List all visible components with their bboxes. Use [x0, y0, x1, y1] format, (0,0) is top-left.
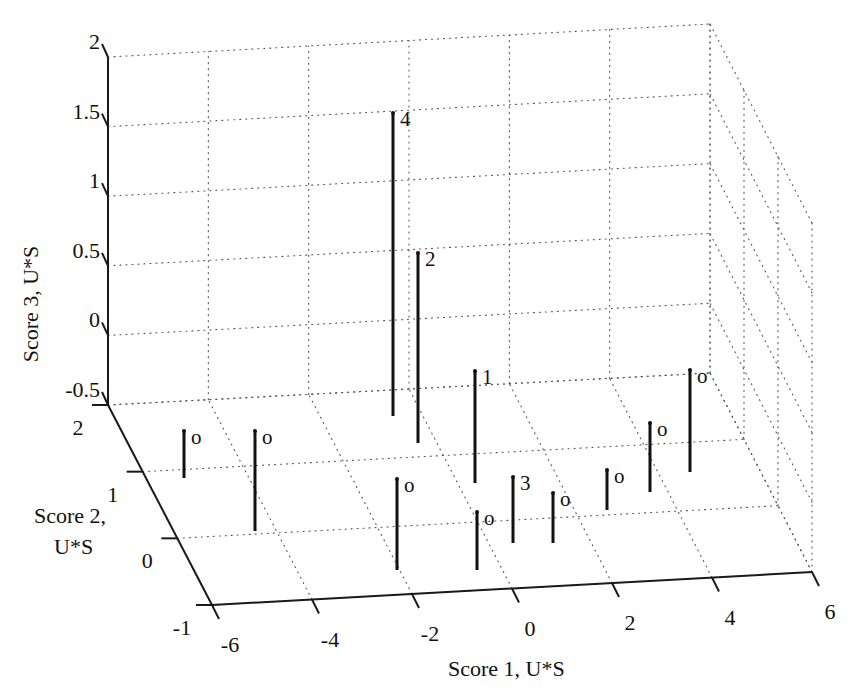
z-tick: [102, 44, 108, 57]
x-tick: [712, 578, 719, 592]
stem-marker: [551, 491, 555, 495]
stem-label: 4: [400, 107, 411, 131]
backwall-grid-z: [108, 303, 710, 335]
x-tick-label: 2: [625, 610, 636, 635]
z-tick-label: 0: [89, 307, 100, 332]
sidewall-grid-z: [710, 24, 812, 223]
z-axis-title: Score 3, U*S: [18, 246, 43, 363]
y-tick-label: 0: [142, 548, 153, 573]
sidewall-grid-z: [710, 94, 812, 293]
floor-grid-x: [610, 378, 712, 577]
stem-label: 1: [482, 365, 493, 389]
x-tick-label: 4: [725, 605, 736, 630]
y-axis-title-line1: Score 2,: [34, 503, 106, 528]
z-tick-label: 1: [89, 168, 100, 193]
stem-marker: [416, 251, 420, 255]
stem-marker: [475, 510, 479, 514]
stem-marker: [473, 369, 477, 373]
x-tick-label: 6: [825, 599, 836, 624]
stem-marker: [605, 468, 609, 472]
grid-lines: [108, 24, 812, 605]
x-tick: [212, 605, 219, 619]
x-tick: [812, 572, 819, 586]
x-tick: [312, 600, 319, 614]
x-tick-label: 0: [525, 616, 536, 641]
stem-marker: [391, 111, 395, 115]
backwall-grid-z: [108, 373, 710, 405]
floor-grid-x: [710, 373, 812, 572]
x-tick: [412, 594, 419, 608]
z-tick-label: 2: [89, 29, 100, 54]
stem-label: o: [262, 425, 273, 449]
y-axis-title-line2: U*S: [54, 534, 93, 559]
tick-labels: -6-4-20246-1012-0.500.511.52: [65, 29, 835, 657]
stem-marker: [253, 429, 257, 433]
stem-label: o: [560, 487, 571, 511]
floor-grid-y: [143, 439, 744, 471]
stem-label: 2: [425, 247, 436, 271]
stem-marker: [688, 368, 692, 372]
stem-label: o: [657, 417, 668, 441]
sidewall-grid-z: [710, 373, 812, 572]
y-tick-label: 2: [73, 415, 84, 440]
stem-marker: [648, 421, 652, 425]
sidewall-grid-z: [710, 164, 812, 363]
stem-label: o: [404, 473, 415, 497]
sidewall-grid-z: [710, 303, 812, 502]
sidewall-grid-z: [710, 233, 812, 432]
stem-label: 3: [520, 471, 531, 495]
stem-label: o: [484, 506, 495, 530]
x-tick-label: -4: [321, 627, 339, 652]
x-axis-title: Score 1, U*S: [448, 656, 565, 681]
stem-label: o: [614, 464, 625, 488]
y-tick-label: 1: [107, 482, 118, 507]
floor-grid-x: [208, 400, 312, 600]
y-tick-label: -1: [173, 615, 191, 640]
stem-marker: [182, 429, 186, 433]
stem-marker: [395, 477, 399, 481]
stem-marker: [511, 475, 515, 479]
z-tick-label: 0.5: [73, 238, 101, 263]
x-tick-label: -6: [221, 632, 239, 657]
stem-label: o: [697, 364, 708, 388]
x-tick-label: -2: [421, 621, 439, 646]
z-tick-label: -0.5: [65, 377, 100, 402]
floor-grid-x: [409, 389, 512, 589]
x-tick: [612, 583, 619, 597]
z-tick-label: 1.5: [73, 99, 101, 124]
x-tick: [512, 589, 519, 603]
stem3-chart: oo421oo3oooo -6-4-20246-1012-0.500.511.5…: [0, 0, 856, 693]
stems: oo421oo3oooo: [182, 107, 708, 570]
stem-label: o: [191, 425, 202, 449]
